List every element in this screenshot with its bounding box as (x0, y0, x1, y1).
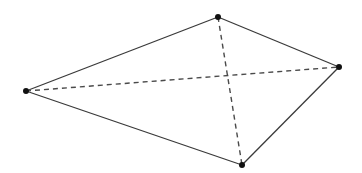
edge-right-bottom (242, 67, 339, 165)
vertex-top (215, 14, 221, 20)
quadrilateral-diagram (0, 0, 362, 173)
vertex-right (336, 64, 342, 70)
diagram-canvas (0, 0, 362, 173)
vertex-bottom (239, 162, 245, 168)
edge-top-right (218, 17, 339, 67)
edge-bottom-left (26, 91, 242, 165)
diagonal-top-bottom (218, 17, 242, 165)
diagonal-left-right (26, 67, 339, 91)
edge-left-top (26, 17, 218, 91)
vertex-left (23, 88, 29, 94)
